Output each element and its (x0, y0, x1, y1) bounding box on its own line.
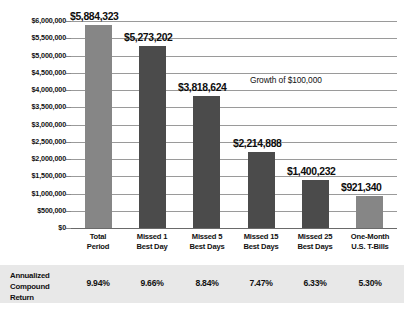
category-label-line: Best Days (180, 242, 234, 252)
x-axis-category-label: Missed 25Best Days (288, 232, 342, 252)
bar-value-label: $3,818,624 (178, 83, 227, 93)
category-label-line: Missed 25 (288, 232, 342, 242)
category-label-line: One-Month (343, 232, 397, 242)
band-row-label-line: Compound (10, 282, 50, 293)
annualized-return-value: 9.94% (71, 278, 125, 288)
bar-chart: $6,000,000$5,500,000$5,000,000$4,500,000… (0, 0, 404, 262)
bars-group: $5,884,323TotalPeriod$5,273,202Missed 1B… (0, 0, 404, 262)
bar-value-label: $5,884,323 (70, 12, 119, 22)
bar-4[interactable] (248, 152, 275, 228)
bar-5[interactable] (302, 180, 329, 228)
category-label-line: Total (71, 232, 125, 242)
chart-page: $6,000,000$5,500,000$5,000,000$4,500,000… (0, 0, 404, 312)
bar-value-label: $921,340 (341, 183, 382, 193)
band-row-label-line: Annualized (10, 271, 50, 282)
x-axis-category-label: One-MonthU.S. T-Bills (343, 232, 397, 252)
bar-value-label: $2,214,888 (233, 139, 282, 149)
annualized-return-value: 8.84% (180, 278, 234, 288)
bar-value-label: $5,273,202 (124, 33, 173, 43)
bar-value-label: $1,400,232 (287, 167, 336, 177)
category-label-line: U.S. T-Bills (343, 242, 397, 252)
category-label-line: Best Days (234, 242, 288, 252)
x-axis-category-label: Missed 5Best Days (180, 232, 234, 252)
annualized-return-value: 6.33% (288, 278, 342, 288)
chart-annotation: Growth of $100,000 (250, 76, 322, 84)
category-label-line: Best Day (125, 242, 179, 252)
category-label-line: Period (71, 242, 125, 252)
x-axis-category-label: TotalPeriod (71, 232, 125, 252)
category-label-line: Missed 15 (234, 232, 288, 242)
annualized-return-value: 9.66% (125, 278, 179, 288)
bar-6[interactable] (356, 196, 383, 228)
annualized-return-value: 5.30% (343, 278, 397, 288)
annualized-return-band: AnnualizedCompoundReturn 9.94%9.66%8.84%… (0, 265, 404, 303)
bar-3[interactable] (193, 96, 220, 228)
category-label-line: Missed 5 (180, 232, 234, 242)
x-axis-category-label: Missed 1Best Day (125, 232, 179, 252)
category-label-line: Missed 1 (125, 232, 179, 242)
bar-1[interactable] (85, 25, 112, 228)
category-label-line: Best Days (288, 242, 342, 252)
band-row-label-line: Return (10, 293, 50, 304)
bar-2[interactable] (139, 46, 166, 228)
annualized-return-value: 7.47% (234, 278, 288, 288)
x-axis-category-label: Missed 15Best Days (234, 232, 288, 252)
band-row-label: AnnualizedCompoundReturn (10, 271, 50, 303)
